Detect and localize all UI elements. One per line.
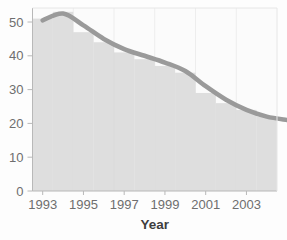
bar (94, 42, 114, 191)
x-axis-title: Year (140, 217, 169, 232)
bar (196, 93, 216, 191)
y-tick-label: 30 (9, 82, 23, 97)
bar (73, 32, 93, 191)
x-tick-label: 2003 (232, 197, 261, 212)
chart-figure: 01020304050 199319951997199920012003 Yea… (0, 0, 287, 240)
chart-canvas: 01020304050 199319951997199920012003 Yea… (0, 0, 287, 240)
y-tick-label: 20 (9, 116, 23, 131)
y-tick-label: 50 (9, 15, 23, 30)
x-tick-label: 1995 (69, 197, 98, 212)
x-tick-label: 1999 (150, 197, 179, 212)
bar (53, 12, 73, 191)
bar (33, 19, 53, 191)
x-tick-label: 1997 (110, 197, 139, 212)
bar (236, 110, 256, 191)
bar (114, 52, 134, 191)
y-tick-label: 0 (16, 184, 23, 199)
x-tick-label: 1993 (28, 197, 57, 212)
bar (216, 103, 236, 191)
y-tick-label: 10 (9, 150, 23, 165)
bar (257, 117, 277, 191)
bar (155, 66, 175, 191)
bar (175, 73, 195, 191)
y-tick-label: 40 (9, 48, 23, 63)
x-tick-label: 2001 (191, 197, 220, 212)
bar (134, 59, 154, 191)
